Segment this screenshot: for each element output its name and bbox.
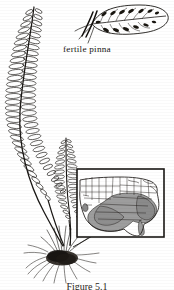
large-frond: [5, 7, 66, 246]
fern-figure: fertile pinna Figure 5.1: [0, 0, 174, 290]
fertile-pinna-label: fertile pinna: [0, 44, 174, 54]
fertile-pinna-detail: [75, 5, 168, 43]
figure-caption: Figure 5.1: [0, 281, 174, 290]
us-distribution-map: [77, 169, 164, 237]
